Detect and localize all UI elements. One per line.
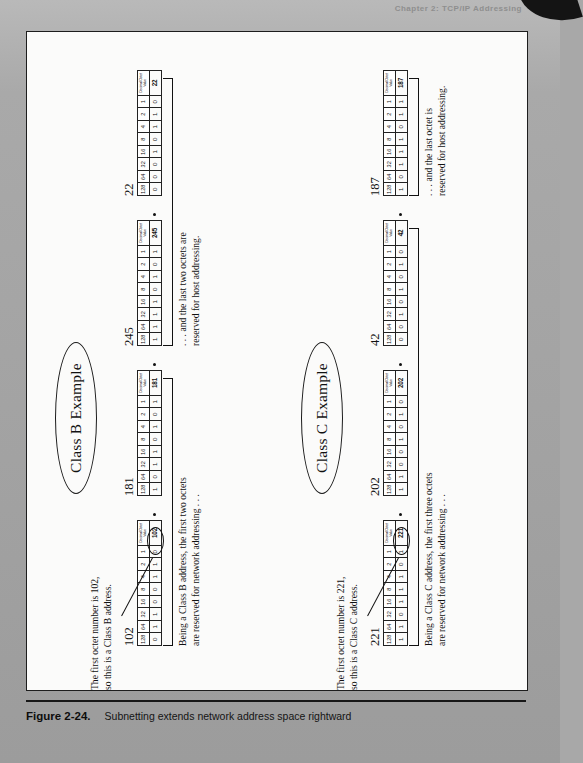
bit-value-cell: 1 <box>150 446 162 459</box>
bit-weight-cell: 128 <box>384 333 396 346</box>
bit-weight-cell: 32 <box>384 458 396 471</box>
bit-weight-cell: 8 <box>384 583 396 596</box>
bit-weight-cell: 2 <box>384 108 396 121</box>
decimal-octet-value-cell: 102 <box>150 521 162 546</box>
bit-value-cell: 1 <box>150 571 162 584</box>
bit-value-cell: 1 <box>396 158 408 171</box>
bit-weight-cell: 32 <box>138 308 150 321</box>
bit-value-cell: 1 <box>150 246 162 259</box>
bit-weight-cell: 16 <box>138 296 150 309</box>
bit-weight-cell: 16 <box>138 596 150 609</box>
bit-weight-cell: 64 <box>138 321 150 334</box>
figure-caption-text: Subnetting extends network address space… <box>105 710 352 722</box>
decimal-octet-value-header: Decimal Octet Value <box>384 521 396 546</box>
bit-weight-cell: 4 <box>138 121 150 134</box>
running-head: Chapter 2: TCP/IP Addressing <box>395 4 522 13</box>
bit-value-row: 0010101042 <box>396 221 408 346</box>
bit-weight-cell: 2 <box>384 258 396 271</box>
bit-value-cell: 1 <box>150 146 162 159</box>
oval-label-text: Class B Example <box>67 363 85 473</box>
decimal-octet-value-cell: 245 <box>150 221 162 246</box>
bit-weight-cell: 64 <box>384 621 396 634</box>
bit-value-cell: 1 <box>150 396 162 409</box>
bit-weight-table: 1286432168421Decimal Octet Value10111011… <box>383 70 408 196</box>
decimal-octet-value-header: Decimal Octet Value <box>384 371 396 396</box>
bit-weight-cell: 8 <box>384 133 396 146</box>
decimal-octet-value-cell: 221 <box>396 521 408 546</box>
bit-weight-cell: 64 <box>384 171 396 184</box>
bit-value-cell: 1 <box>396 583 408 596</box>
decimal-octet-value-header: Decimal Octet Value <box>138 371 150 396</box>
octet-table-2-class-c: 2021286432168421Decimal Octet Value11001… <box>383 370 408 496</box>
bit-value-cell: 0 <box>150 633 162 646</box>
bit-weight-cell: 2 <box>138 258 150 271</box>
bit-weight-cell: 32 <box>384 158 396 171</box>
figure-box: Class B Example1021286432168421Decimal O… <box>26 31 528 691</box>
network-portion-note-class-b: Being a Class B address, the first two o… <box>177 416 203 646</box>
example-class-b: Class B Example1021286432168421Decimal O… <box>33 32 269 690</box>
bit-value-cell: 0 <box>150 433 162 446</box>
bit-weight-row: 1286432168421Decimal Octet Value <box>384 71 396 196</box>
decimal-octet-value-header: Decimal Octet Value <box>384 221 396 246</box>
bit-value-cell: 1 <box>396 621 408 634</box>
bit-value-cell: 0 <box>396 296 408 309</box>
bit-weight-row: 1286432168421Decimal Octet Value <box>138 71 150 196</box>
bit-weight-cell: 64 <box>384 471 396 484</box>
bit-weight-table: 1286432168421Decimal Octet Value00101010… <box>383 220 408 346</box>
bit-value-cell: 0 <box>150 133 162 146</box>
bit-value-cell: 1 <box>396 433 408 446</box>
decimal-octet-value-cell: 42 <box>396 221 408 246</box>
bit-value-cell: 0 <box>396 171 408 184</box>
bit-weight-cell: 128 <box>384 633 396 646</box>
network-portion-bracket-class-b <box>163 378 173 646</box>
bit-value-cell: 0 <box>150 596 162 609</box>
bit-value-cell: 1 <box>150 271 162 284</box>
bit-value-cell: 1 <box>150 108 162 121</box>
octet-decimal-label: 181 <box>122 477 137 496</box>
bit-weight-cell: 16 <box>138 446 150 459</box>
bit-value-cell: 0 <box>150 171 162 184</box>
bit-weight-cell: 4 <box>384 121 396 134</box>
network-portion-bracket-class-c <box>409 228 419 646</box>
bit-weight-cell: 1 <box>384 96 396 109</box>
bit-value-cell: 0 <box>150 583 162 596</box>
octet-separator-dot <box>399 513 402 516</box>
bit-weight-cell: 1 <box>384 546 396 559</box>
callout-note-class-b: The first octet number is 102, so this i… <box>89 560 115 690</box>
bit-weight-cell: 4 <box>138 421 150 434</box>
bit-value-cell: 0 <box>150 183 162 196</box>
bit-weight-cell: 1 <box>138 546 150 559</box>
bit-weight-cell: 64 <box>138 471 150 484</box>
oval-label-class-c: Class C Example <box>301 342 343 494</box>
figure-stage: Class B Example1021286432168421Decimal O… <box>27 32 527 690</box>
bit-weight-cell: 16 <box>138 146 150 159</box>
octet-table-2-class-b: 1811286432168421Decimal Octet Value10110… <box>137 370 162 496</box>
host-portion-bracket-class-c <box>409 78 419 196</box>
bit-weight-cell: 32 <box>138 158 150 171</box>
bit-value-cell: 1 <box>150 421 162 434</box>
bit-weight-cell: 128 <box>138 333 150 346</box>
decimal-octet-value-header: Decimal Octet Value <box>138 71 150 96</box>
bit-weight-cell: 32 <box>384 308 396 321</box>
bit-value-cell: 1 <box>396 108 408 121</box>
bit-value-cell: 1 <box>150 621 162 634</box>
bit-value-row: 11001010202 <box>396 371 408 496</box>
bit-weight-cell: 16 <box>384 446 396 459</box>
bit-weight-cell: 8 <box>384 433 396 446</box>
bit-value-cell: 1 <box>396 96 408 109</box>
bit-weight-table: 1286432168421Decimal Octet Value10110101… <box>137 370 162 496</box>
bit-weight-cell: 8 <box>138 133 150 146</box>
callout-note-class-c: The first octet number is 221, so this i… <box>335 560 361 690</box>
network-portion-note-class-c: Being a Class C address, the first three… <box>423 416 449 646</box>
bit-value-cell: 0 <box>150 258 162 271</box>
bit-value-cell: 0 <box>150 546 162 559</box>
bit-value-cell: 0 <box>396 421 408 434</box>
bit-value-row: 01100110102 <box>150 521 162 646</box>
bit-value-row: 11110101245 <box>150 221 162 346</box>
bit-weight-cell: 4 <box>384 421 396 434</box>
bit-weight-cell: 8 <box>138 433 150 446</box>
bit-weight-cell: 1 <box>138 96 150 109</box>
bit-value-cell: 1 <box>150 458 162 471</box>
octet-table-1-class-c: 2211286432168421Decimal Octet Value11011… <box>383 520 408 646</box>
bit-weight-cell: 1 <box>384 246 396 259</box>
